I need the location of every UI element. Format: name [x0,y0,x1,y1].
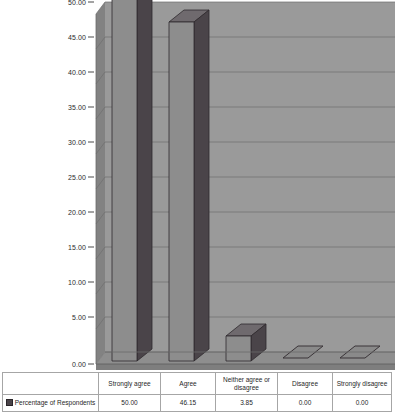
series-legend-cell: Percentage of Respondents [3,395,99,412]
y-axis-tick-label: 30.00 [68,139,86,146]
y-axis-tick-mark [88,72,94,73]
y-axis-tick-mark [88,37,94,38]
y-axis-tick-mark [88,2,94,3]
value-cell-strongly-agree: 50.00 [99,395,161,412]
table-header-row: Strongly agree Agree Neither agree or di… [3,373,392,395]
bar-agree[interactable] [169,10,209,361]
y-axis-tick-mark [88,212,94,213]
y-axis-tick-label: 35.00 [68,104,86,111]
y-axis-tick-mark [88,177,94,178]
bar-neither-front [226,336,251,361]
y-axis-tick-label: 20.00 [68,209,86,216]
table-row: Percentage of Respondents 50.00 46.15 3.… [3,395,392,412]
bar-strongly-agree[interactable] [112,0,152,361]
bar-strongly-agree-front [112,0,137,361]
y-axis-tick-label: 5.00 [72,314,86,321]
y-axis-tick-mark [88,142,94,143]
value-cell-agree: 46.15 [161,395,216,412]
y-axis-tick-label: 15.00 [68,244,86,251]
y-axis-tick-mark [88,364,94,365]
bar-strongly-agree-side [137,0,152,361]
bar-chart-figure: 50.00 45.00 40.00 35.00 30.00 25.00 20.0… [0,0,395,415]
series-color-swatch-icon [6,399,13,406]
y-axis-tick-label: 0.00 [72,361,86,368]
y-axis: 50.00 45.00 40.00 35.00 30.00 25.00 20.0… [0,0,96,372]
data-table: Strongly agree Agree Neither agree or di… [0,372,395,415]
y-axis-tick-mark [88,317,94,318]
value-cell-disagree: 0.00 [278,395,333,412]
series-legend-label: Percentage of Respondents [15,399,96,406]
y-axis-tick-mark [88,107,94,108]
column-header-disagree: Disagree [278,373,333,395]
column-header-neither-agree-or-disagree: Neither agree or disagree [216,373,278,395]
column-header-agree: Agree [161,373,216,395]
plot-area: 50.00 45.00 40.00 35.00 30.00 25.00 20.0… [0,0,395,372]
bar-agree-front [169,22,194,361]
y-axis-tick-label: 25.00 [68,174,86,181]
value-cell-neither-agree-or-disagree: 3.85 [216,395,278,412]
y-axis-tick-mark [88,247,94,248]
y-axis-tick-label: 50.00 [68,0,86,6]
column-header-strongly-disagree: Strongly disagree [333,373,392,395]
table-corner-cell [3,373,99,395]
value-cell-strongly-disagree: 0.00 [333,395,392,412]
y-axis-tick-mark [88,282,94,283]
y-axis-tick-label: 10.00 [68,279,86,286]
plot-floor-front [96,364,395,370]
bar-agree-side [194,10,209,361]
y-axis-tick-label: 40.00 [68,69,86,76]
column-header-strongly-agree: Strongly agree [99,373,161,395]
y-axis-tick-label: 45.00 [68,34,86,41]
